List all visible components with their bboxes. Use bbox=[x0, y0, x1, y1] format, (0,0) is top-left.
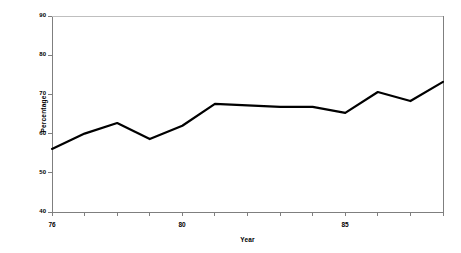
y-tick-marks bbox=[48, 16, 52, 212]
line-chart: Percentage Year 90 80 70 60 50 40 76 80 … bbox=[0, 0, 461, 253]
axis-frame bbox=[52, 16, 443, 212]
plot-svg bbox=[0, 0, 461, 253]
data-series-line bbox=[52, 82, 443, 149]
x-tick-marks bbox=[52, 212, 443, 216]
